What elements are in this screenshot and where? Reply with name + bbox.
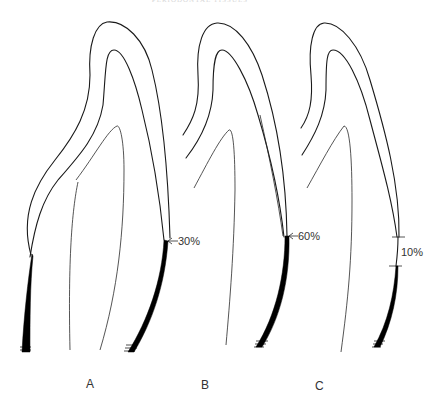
tooth-a-pulp-left <box>76 126 124 350</box>
tooth-a-pulp-inner <box>69 182 78 350</box>
tooth-b-percent-label: 60% <box>298 230 320 242</box>
panel-label-c: C <box>315 379 324 393</box>
tooth-a-hatching <box>20 345 138 351</box>
tooth-b-pulp-left <box>194 130 235 345</box>
tooth-b: 60% <box>183 23 320 347</box>
tooth-b-inner-outline <box>186 50 284 237</box>
tooth-b-right-band <box>256 236 289 347</box>
tooth-a-inner-outline <box>30 50 164 257</box>
panel-label-b: B <box>201 378 209 392</box>
tooth-a: 30% <box>20 22 200 352</box>
tooth-c: 10% <box>301 23 423 352</box>
tooth-c-root-line <box>396 237 398 266</box>
tooth-a-left-band <box>22 254 33 352</box>
tooth-c-percent-label: 10% <box>401 246 423 258</box>
tooth-a-percent-label: 30% <box>178 235 200 247</box>
tooth-diagram: 30% 60% 10% <box>0 0 438 411</box>
tooth-c-inner-outline <box>302 50 397 237</box>
panel-label-a: A <box>86 377 94 391</box>
tooth-a-right-band <box>128 240 168 352</box>
tooth-c-right-band <box>374 266 398 347</box>
